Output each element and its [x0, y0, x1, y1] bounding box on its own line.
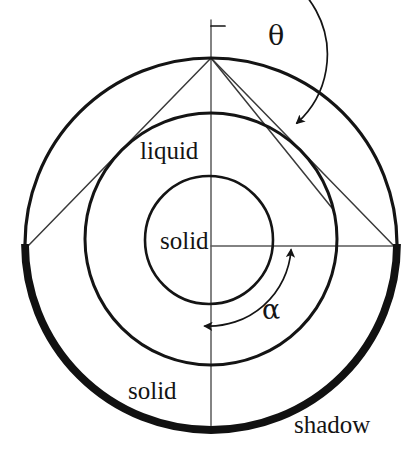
theta-angle-arc [211, 0, 327, 123]
diagram-root: liquid solid solid shadow θ α [0, 0, 412, 456]
label-shadow: shadow [294, 412, 370, 437]
label-liquid: liquid [140, 138, 198, 163]
chord-apex-to-inner-right [211, 58, 332, 208]
label-theta-angle: θ [268, 22, 284, 49]
label-solid-core: solid [160, 228, 209, 253]
label-solid-shell: solid [128, 378, 177, 403]
label-alpha-angle: α [262, 296, 280, 323]
